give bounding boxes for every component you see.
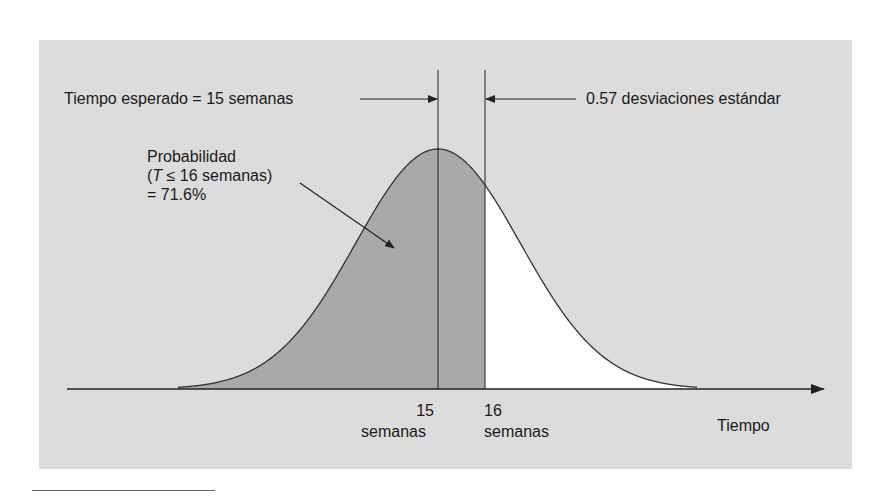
variable-t: T	[152, 167, 162, 184]
probability-label-line1: Probabilidad	[147, 147, 272, 166]
probability-label-line3: = 71.6%	[147, 185, 272, 204]
x-axis-label: Tiempo	[717, 416, 770, 435]
probability-label-line2: (T ≤ 16 semanas)	[147, 166, 272, 185]
tick-16-unit: semanas	[484, 422, 549, 441]
probability-label: Probabilidad (T ≤ 16 semanas) = 71.6%	[147, 147, 272, 204]
footnote-rule	[32, 490, 215, 491]
expected-time-label: Tiempo esperado = 15 semanas	[64, 89, 293, 108]
tick-15-label: 15	[386, 401, 436, 420]
tick-15-unit: semanas	[361, 422, 426, 441]
tick-16-label: 16	[484, 401, 502, 420]
std-dev-label: 0.57 desviaciones estándar	[586, 89, 781, 108]
unshaded-tail-area	[485, 185, 697, 389]
